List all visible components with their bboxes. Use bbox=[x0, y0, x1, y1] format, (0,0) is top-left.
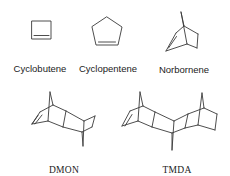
cyclopentene-label: Cyclopentene bbox=[79, 63, 137, 74]
cyclobutene-structure bbox=[32, 21, 51, 39]
norbornene-label: Norbornene bbox=[159, 64, 209, 75]
norbornene-structure bbox=[166, 12, 198, 51]
cyclobutene-label: Cyclobutene bbox=[14, 63, 67, 74]
cyclopentene-structure bbox=[92, 17, 122, 45]
molecule-figure: Cyclobutene Cyclopentene Norbornene DMON… bbox=[0, 0, 230, 176]
structures-svg bbox=[0, 0, 230, 176]
dmon-label: DMON bbox=[49, 165, 79, 175]
tmda-structure bbox=[122, 92, 217, 150]
tmda-label: TMDA bbox=[162, 165, 191, 175]
dmon-structure bbox=[32, 92, 95, 146]
